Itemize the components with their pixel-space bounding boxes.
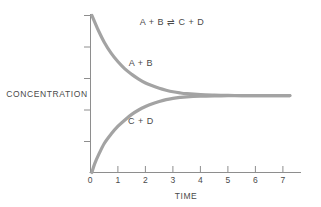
curve-reactants-a-plus-b [92, 16, 290, 96]
x-tick-label-6: 6 [253, 175, 258, 185]
x-tick-label-0: 0 [88, 175, 93, 185]
series-label-products: C + D [128, 116, 154, 126]
x-tick-label-1: 1 [116, 175, 121, 185]
curve-products-c-plus-d [92, 96, 290, 173]
x-tick-label-4: 4 [198, 175, 203, 185]
series-label-reactants: A + B [129, 58, 153, 68]
equilibrium-chart-svg: 0 1 2 3 4 5 6 7 TIME CONCENTRATION A + B… [0, 0, 321, 207]
x-tick-label-7: 7 [281, 175, 286, 185]
x-axis-title: TIME [175, 191, 198, 201]
chart-figure: 0 1 2 3 4 5 6 7 TIME CONCENTRATION A + B… [0, 0, 321, 207]
x-tick-label-2: 2 [143, 175, 148, 185]
y-axis-title: CONCENTRATION [6, 89, 87, 99]
x-tick-label-5: 5 [226, 175, 231, 185]
reaction-equation-label: A + B ⇌ C + D [140, 17, 205, 27]
x-tick-label-3: 3 [171, 175, 176, 185]
